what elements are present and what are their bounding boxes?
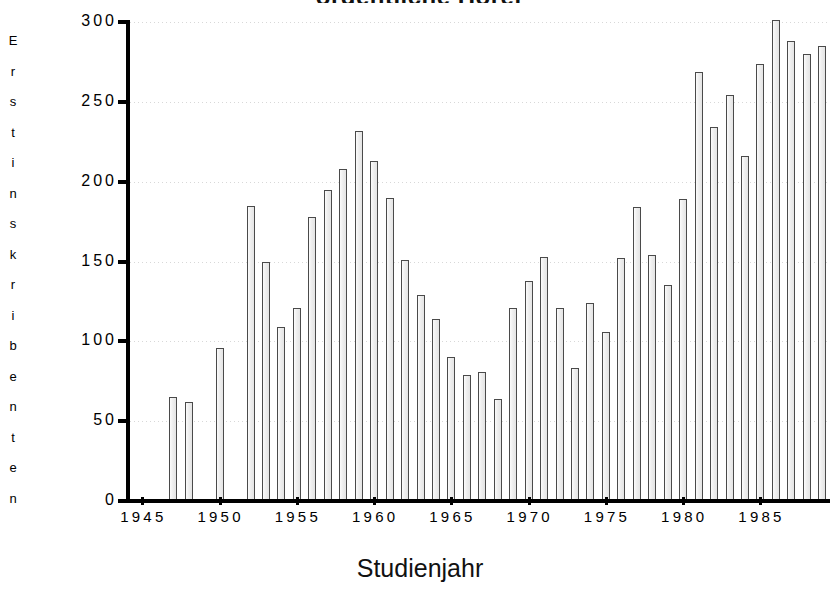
- chart-figure: ordentliche Hörer Erstinskribenten 05010…: [0, 0, 840, 599]
- y-axis-title-letter: e: [9, 362, 16, 393]
- y-axis-tick: [118, 499, 130, 503]
- bar: [787, 41, 795, 501]
- x-axis-tick: [219, 497, 222, 505]
- y-axis-title-letter: r: [11, 270, 15, 301]
- x-axis-tick-label: 1980: [661, 508, 707, 525]
- x-axis-tick-label: 1955: [275, 508, 321, 525]
- x-axis-tick-label: 1960: [352, 508, 398, 525]
- bar: [185, 402, 193, 501]
- bar: [432, 319, 440, 501]
- bar: [602, 332, 610, 501]
- y-axis-tick-label: 100: [5, 331, 117, 349]
- bar: [679, 199, 687, 501]
- bar: [726, 95, 734, 501]
- y-axis-title-letter: e: [9, 453, 16, 484]
- bar: [324, 190, 332, 501]
- bar: [169, 397, 177, 501]
- bar: [741, 156, 749, 501]
- bar: [386, 198, 394, 501]
- bar: [447, 357, 455, 501]
- x-axis-tick: [296, 497, 299, 505]
- bar: [756, 64, 764, 501]
- x-axis-title: Studienjahr: [0, 554, 840, 583]
- bar: [571, 368, 579, 501]
- y-axis-tick-label: 0: [5, 491, 117, 509]
- x-axis-tick: [450, 497, 453, 505]
- bar: [664, 285, 672, 501]
- bar: [648, 255, 656, 501]
- bar: [818, 46, 826, 501]
- x-axis-tick-label: 1970: [507, 508, 553, 525]
- x-axis-tick-label: 1985: [738, 508, 784, 525]
- bar: [262, 262, 270, 502]
- y-axis-tick: [118, 20, 130, 24]
- x-axis-tick: [373, 497, 376, 505]
- y-axis-tick: [118, 100, 130, 104]
- bar: [478, 372, 486, 501]
- bar: [710, 127, 718, 501]
- y-axis-tick-label: 250: [5, 92, 117, 110]
- y-axis-title-letter: s: [10, 209, 17, 240]
- x-axis-tick-label: 1965: [429, 508, 475, 525]
- bar: [525, 281, 533, 501]
- x-axis-tick: [141, 497, 144, 505]
- bar: [586, 303, 594, 501]
- bar: [617, 258, 625, 501]
- y-axis-tick: [118, 339, 130, 343]
- y-axis-title-letter: t: [11, 118, 15, 149]
- x-axis-tick-label: 1945: [120, 508, 166, 525]
- bar: [216, 348, 224, 501]
- y-axis-tick-label: 150: [5, 252, 117, 270]
- y-axis-tick: [118, 419, 130, 423]
- bar: [417, 295, 425, 501]
- y-axis-tick: [118, 180, 130, 184]
- y-axis-tick-label: 200: [5, 172, 117, 190]
- y-axis-title-letter: E: [9, 26, 18, 57]
- bar: [772, 20, 780, 501]
- y-axis-title-letter: i: [12, 301, 15, 332]
- bar: [247, 206, 255, 501]
- x-axis-tick: [605, 497, 608, 505]
- bar: [494, 399, 502, 501]
- chart-title: ordentliche Hörer: [0, 0, 840, 3]
- bar: [401, 260, 409, 501]
- bar: [370, 161, 378, 501]
- gridline: [130, 22, 830, 23]
- x-axis-line: [126, 499, 830, 503]
- x-axis-tick: [528, 497, 531, 505]
- x-axis-tick-label: 1975: [584, 508, 630, 525]
- bar: [540, 257, 548, 501]
- bar: [308, 217, 316, 501]
- bar: [695, 72, 703, 502]
- x-axis-tick: [682, 497, 685, 505]
- bar: [463, 375, 471, 501]
- y-axis-tick: [118, 260, 130, 264]
- bar: [277, 327, 285, 501]
- bar: [556, 308, 564, 501]
- x-axis-tick: [759, 497, 762, 505]
- bar: [293, 308, 301, 501]
- bar: [355, 131, 363, 501]
- y-axis-tick-label: 300: [5, 12, 117, 30]
- bar: [633, 207, 641, 501]
- bar: [803, 54, 811, 501]
- plot-area: [130, 22, 830, 501]
- bar: [339, 169, 347, 501]
- x-axis-tick-label: 1950: [198, 508, 244, 525]
- bar: [509, 308, 517, 501]
- y-axis-tick-label: 50: [5, 411, 117, 429]
- y-axis-title-letter: r: [11, 57, 15, 88]
